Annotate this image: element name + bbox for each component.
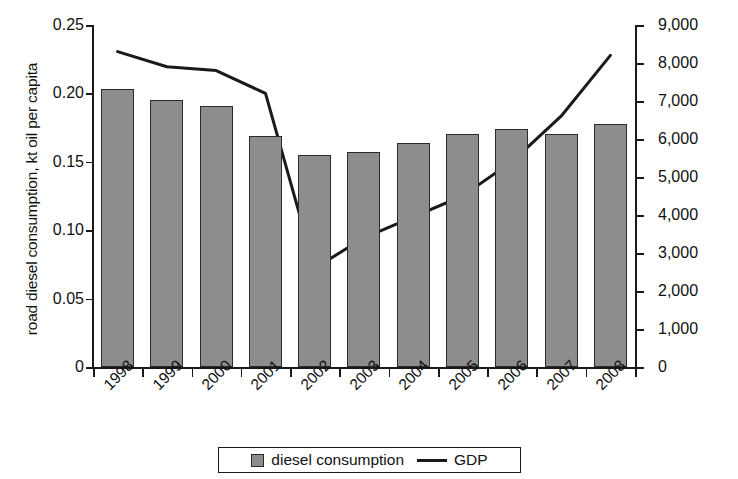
square-swatch-icon [251, 454, 264, 467]
x-axis-tick-mark [487, 369, 489, 377]
x-axis-tick-mark [389, 369, 391, 377]
x-axis-tick-mark [93, 369, 95, 377]
x-axis-tick-mark [536, 369, 538, 377]
x-axis-tick-mark [290, 369, 292, 377]
legend-item-gdp: GDP [417, 451, 488, 469]
x-axis-labels: 1998199920002001200220032004200520062007… [0, 0, 738, 479]
x-axis-tick-mark [586, 369, 588, 377]
x-axis-label-2006: 2006 [494, 357, 531, 394]
x-axis-tick-mark [635, 369, 637, 377]
x-axis-label-2008: 2008 [592, 357, 629, 394]
x-axis-tick-mark [142, 369, 144, 377]
x-axis-label-2002: 2002 [297, 357, 334, 394]
chart-legend: diesel consumption GDP [218, 447, 521, 473]
x-axis-label-2007: 2007 [543, 357, 580, 394]
x-axis-tick-mark [192, 369, 194, 377]
legend-item-diesel-consumption: diesel consumption [251, 451, 404, 469]
x-axis-label-2003: 2003 [346, 357, 383, 394]
chart-container: road diesel consumption, kt oil per capi… [0, 0, 738, 479]
x-axis-label-2005: 2005 [445, 357, 482, 394]
x-axis-tick-mark [438, 369, 440, 377]
legend-label-diesel-consumption: diesel consumption [271, 451, 404, 469]
x-axis-label-2000: 2000 [198, 357, 235, 394]
line-swatch-icon [417, 459, 447, 462]
x-axis-label-1999: 1999 [149, 357, 186, 394]
x-axis-label-2001: 2001 [247, 357, 284, 394]
x-axis-label-2004: 2004 [395, 357, 432, 394]
x-axis-label-1998: 1998 [100, 357, 137, 394]
x-axis-tick-mark [241, 369, 243, 377]
legend-label-gdp: GDP [454, 451, 488, 469]
x-axis-tick-mark [339, 369, 341, 377]
